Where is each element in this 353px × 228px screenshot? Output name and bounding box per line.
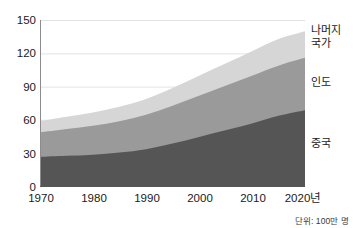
- series-label-rest-of-world: 나머지 국가: [311, 24, 341, 50]
- x-axis-tick-2000: 2000: [187, 193, 213, 205]
- unit-footnote: 단위: 100만 명: [295, 217, 349, 226]
- y-axis-tick-120: 120: [0, 48, 36, 60]
- y-axis-tick-90: 90: [0, 82, 36, 94]
- x-axis-tick-1970: 1970: [28, 193, 54, 205]
- x-axis-tick-2020: 2020년: [285, 193, 322, 205]
- plot-area: [40, 20, 305, 187]
- y-axis-tick-30: 30: [0, 149, 36, 161]
- y-axis-tick-60: 60: [0, 115, 36, 127]
- stacked-area-chart: [40, 20, 305, 187]
- x-axis-tick-2010: 2010: [240, 193, 266, 205]
- x-axis-tick-1990: 1990: [134, 193, 160, 205]
- y-axis-tick-150: 150: [0, 15, 36, 27]
- series-label-china: 중국: [311, 137, 331, 150]
- x-axis-tick-1980: 1980: [81, 193, 107, 205]
- series-label-india: 인도: [311, 76, 331, 89]
- chart-screenshot: 150 120 90 60 30 0: [0, 0, 353, 228]
